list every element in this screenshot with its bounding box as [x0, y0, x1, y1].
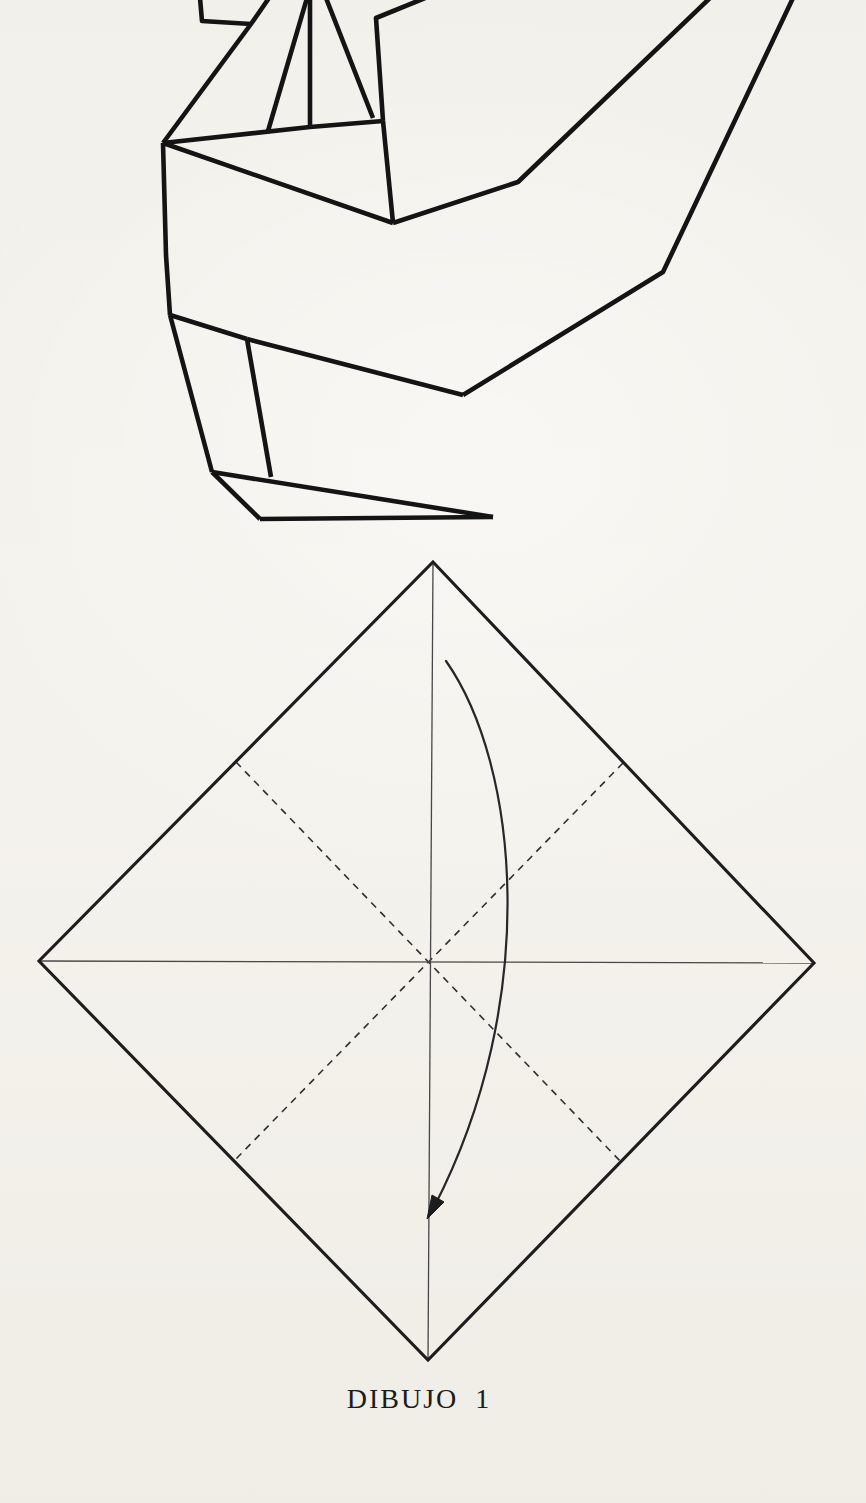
model-line: [268, 0, 307, 131]
model-line: [163, 143, 170, 315]
figure-caption: DIBUJO 1: [0, 1383, 852, 1415]
model-line: [326, 0, 373, 118]
model-line: [247, 339, 463, 395]
crease-thin-line: [39, 961, 814, 963]
model-line: [247, 339, 271, 477]
model-line: [376, 0, 425, 121]
model-line: [383, 121, 393, 223]
fold-arrow-curve: [434, 661, 508, 1207]
scanned-page: DIBUJO 1: [0, 0, 866, 1503]
model-line: [200, 0, 251, 24]
origami-model-figure: [163, 0, 793, 519]
model-line: [163, 143, 393, 223]
model-line: [260, 517, 493, 519]
model-line: [170, 315, 247, 339]
fold-step-diagram: [39, 562, 814, 1360]
model-line: [393, 0, 710, 223]
model-line: [170, 315, 212, 472]
model-line: [463, 0, 793, 395]
origami-illustrations: [0, 0, 866, 1503]
model-line: [163, 121, 383, 143]
